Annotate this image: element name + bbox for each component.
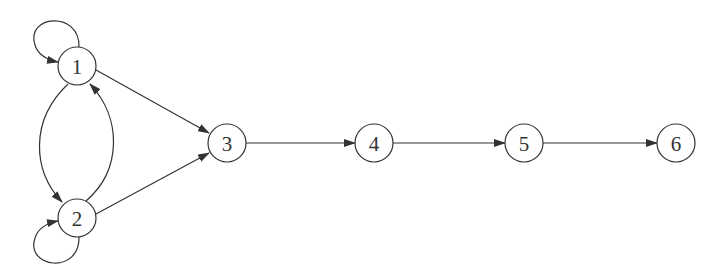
edge-1-to-3 xyxy=(96,70,209,133)
node-1: 1 xyxy=(58,47,96,85)
node-6: 6 xyxy=(657,124,695,162)
node-5-label: 5 xyxy=(519,132,530,156)
edge-2-to-1 xyxy=(86,84,114,201)
node-2: 2 xyxy=(58,199,96,237)
node-4: 4 xyxy=(355,124,393,162)
graph-canvas: 1 2 3 4 5 6 xyxy=(0,0,726,273)
edge-1-to-2 xyxy=(39,84,68,202)
edge-2-to-3 xyxy=(96,153,209,214)
node-1-label: 1 xyxy=(72,55,83,79)
node-6-label: 6 xyxy=(671,132,682,156)
node-4-label: 4 xyxy=(369,132,380,156)
node-3-label: 3 xyxy=(222,132,233,156)
node-5: 5 xyxy=(505,124,543,162)
node-2-label: 2 xyxy=(72,207,83,231)
node-3: 3 xyxy=(208,124,246,162)
